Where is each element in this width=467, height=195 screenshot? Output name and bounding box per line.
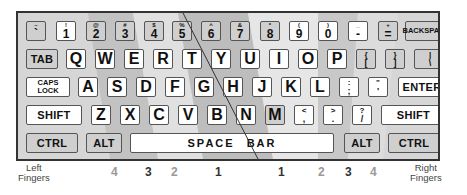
key-c[interactable]: C	[149, 105, 169, 125]
key-d[interactable]: D	[136, 77, 156, 97]
right-finger-3: 3	[345, 165, 352, 179]
key-a[interactable]: A	[78, 77, 98, 97]
key-caps-lock[interactable]: CAPSLOCK	[26, 77, 70, 97]
key-ctrl-right[interactable]: CTRL	[388, 133, 440, 153]
key-shift-right[interactable]: SHIFT	[381, 105, 440, 125]
key-alt-right[interactable]: ALT	[344, 133, 380, 153]
key-5[interactable]: %5	[172, 21, 192, 41]
left-finger-4: 4	[111, 165, 118, 179]
key-y[interactable]: Y	[211, 49, 231, 69]
key-quote[interactable]: "'	[368, 77, 388, 97]
right-finger-2: 2	[318, 165, 325, 179]
key-x[interactable]: X	[120, 105, 140, 125]
key-equals[interactable]: +=	[378, 21, 398, 41]
key-e[interactable]: E	[124, 49, 144, 69]
key-0[interactable]: )0	[318, 21, 338, 41]
key-m[interactable]: M	[265, 105, 285, 125]
key-2[interactable]: @2	[86, 21, 106, 41]
key-period[interactable]: >.	[323, 105, 343, 125]
key-semicolon[interactable]: :;	[339, 77, 359, 97]
key-right-bracket[interactable]: }]	[385, 49, 405, 69]
key-7[interactable]: &7	[230, 21, 250, 41]
key-g[interactable]: G	[194, 77, 214, 97]
key-s[interactable]: S	[107, 77, 127, 97]
key-q[interactable]: Q	[66, 49, 86, 69]
key-p[interactable]: P	[327, 49, 347, 69]
key-comma[interactable]: <,	[294, 105, 314, 125]
key-i[interactable]: I	[269, 49, 289, 69]
key-left-bracket[interactable]: {[	[356, 49, 376, 69]
key-9[interactable]: (9	[289, 21, 309, 41]
key-l[interactable]: L	[310, 77, 330, 97]
key-r[interactable]: R	[153, 49, 173, 69]
key-v[interactable]: V	[178, 105, 198, 125]
key-n[interactable]: N	[236, 105, 256, 125]
keyboard-diagram: ~` !1 @2 #3 $4 %5 ^6 &7 *8 (9 )0 _- += B…	[16, 11, 440, 161]
key-backtick[interactable]: ~`	[26, 21, 46, 41]
key-tab[interactable]: TAB	[26, 49, 58, 69]
key-minus[interactable]: _-	[348, 21, 368, 41]
key-backslash[interactable]: |\	[414, 49, 440, 69]
key-ctrl-left[interactable]: CTRL	[26, 133, 78, 153]
key-6[interactable]: ^6	[201, 21, 221, 41]
key-k[interactable]: K	[281, 77, 301, 97]
key-backspace[interactable]: BACKSPACE	[405, 21, 440, 41]
key-z[interactable]: Z	[91, 105, 111, 125]
key-3[interactable]: #3	[115, 21, 135, 41]
key-slash[interactable]: ?/	[352, 105, 372, 125]
key-j[interactable]: J	[252, 77, 272, 97]
key-h[interactable]: H	[223, 77, 243, 97]
key-8[interactable]: *8	[260, 21, 280, 41]
key-1[interactable]: !1	[56, 21, 76, 41]
key-w[interactable]: W	[95, 49, 115, 69]
left-finger-2: 2	[171, 165, 178, 179]
key-u[interactable]: U	[240, 49, 260, 69]
left-finger-3: 3	[145, 165, 152, 179]
key-shift-left[interactable]: SHIFT	[26, 105, 82, 125]
right-fingers-label: RightFingers	[410, 163, 442, 183]
key-4[interactable]: $4	[144, 21, 164, 41]
key-f[interactable]: F	[165, 77, 185, 97]
right-finger-4: 4	[370, 165, 377, 179]
key-b[interactable]: B	[207, 105, 227, 125]
key-alt-left[interactable]: ALT	[86, 133, 122, 153]
key-enter[interactable]: ENTER	[398, 77, 440, 97]
key-space-bar[interactable]: SPACEBAR	[130, 133, 334, 153]
left-finger-1: 1	[215, 165, 222, 179]
key-t[interactable]: T	[182, 49, 202, 69]
key-o[interactable]: O	[298, 49, 318, 69]
right-finger-1: 1	[278, 165, 285, 179]
left-fingers-label: LeftFingers	[18, 163, 50, 183]
